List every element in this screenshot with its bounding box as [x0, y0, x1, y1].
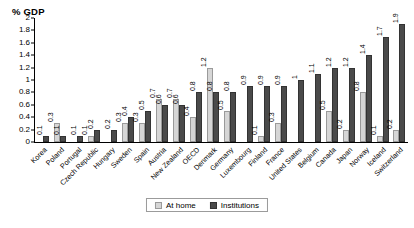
- bar-inst[interactable]: 1.2: [349, 68, 355, 142]
- bar-inst[interactable]: 0.8: [196, 92, 202, 142]
- bar-slot: 0.2: [94, 18, 100, 142]
- bar-group: 0.1: [69, 18, 86, 142]
- bar-value-label: 1.7: [376, 26, 383, 36]
- bar-group: 0.70.6: [154, 18, 171, 142]
- bar-value-label: 0.2: [87, 119, 94, 129]
- bar-slot: 0.1: [77, 18, 83, 142]
- bar-groups: 0.10.30.10.10.10.20.20.30.40.30.50.70.60…: [35, 18, 408, 142]
- bar-group: 1.1: [306, 18, 323, 142]
- bar-group: 0.50.8: [221, 18, 238, 142]
- bar-inst[interactable]: 0.1: [60, 136, 66, 142]
- bar-group: 0.30.5: [137, 18, 154, 142]
- bar-group: 0.10.9: [255, 18, 272, 142]
- bar-slot: 1: [298, 18, 304, 142]
- x-axis-category: Sweden: [120, 144, 137, 192]
- bar-slot: 0.6: [162, 18, 168, 142]
- y-axis-tick-mark: [31, 67, 34, 68]
- bar-value-label: 0.9: [274, 75, 281, 85]
- x-axis-line: [34, 142, 408, 143]
- x-axis-category: New Zealand: [171, 144, 188, 192]
- bar-group: 0.40.8: [188, 18, 205, 142]
- chart-legend: At homeInstitutions: [146, 198, 268, 212]
- x-axis-category: Korea: [35, 144, 52, 192]
- bar-value-label: 0.3: [47, 113, 54, 123]
- bar-value-label: 1.2: [200, 57, 207, 67]
- bar-value-label: 0.5: [319, 100, 326, 110]
- bar-slot: 0.1: [60, 18, 66, 142]
- bar-slot: 0.1: [43, 18, 49, 142]
- y-axis-tick-mark: [31, 30, 34, 31]
- bar-value-label: 1.2: [325, 57, 332, 67]
- y-axis-tick-mark: [31, 18, 34, 19]
- bar-value-label: 0.1: [251, 125, 258, 135]
- bar-value-label: 0.2: [386, 119, 393, 129]
- bar-slot: 0.8: [230, 18, 236, 142]
- bar-group: 0.30.9: [272, 18, 289, 142]
- bar-inst[interactable]: 0.8: [230, 92, 236, 142]
- bar-value-label: 0.8: [353, 82, 360, 92]
- bar-inst[interactable]: 0.1: [77, 136, 83, 142]
- bar-group: 0.70.6: [171, 18, 188, 142]
- y-axis-tick-mark: [31, 80, 34, 81]
- legend-item[interactable]: Institutions: [210, 201, 259, 210]
- bar-value-label: 0.9: [240, 75, 247, 85]
- bar-value-label: 0.8: [223, 82, 230, 92]
- bar-group: 0.1: [35, 18, 52, 142]
- y-axis-tick-mark: [31, 55, 34, 56]
- legend-swatch-inst: [210, 202, 217, 209]
- bar-group: 0.81.4: [357, 18, 374, 142]
- bar-inst[interactable]: 0.6: [162, 105, 168, 142]
- bar-slot: 0.8: [196, 18, 202, 142]
- bar-group: 0.30.1: [52, 18, 69, 142]
- bar-value-label: 1.9: [392, 13, 399, 23]
- bar-slot: 1.9: [399, 18, 405, 142]
- bar-value-label: 0.1: [70, 125, 77, 135]
- x-axis-category-labels: KoreaPolandPortugalCzech RepublicHungary…: [35, 144, 408, 192]
- bar-value-label: 0.6: [155, 94, 162, 104]
- bar-inst[interactable]: 0.2: [111, 130, 117, 142]
- bar-value-label: 0.5: [217, 100, 224, 110]
- bar-slot: 0.9: [281, 18, 287, 142]
- x-axis-category: Canada: [323, 144, 340, 192]
- bar-slot: 0.5: [145, 18, 151, 142]
- bar-inst[interactable]: 1.2: [332, 68, 338, 142]
- bar-slot: 0.4: [128, 18, 134, 142]
- y-axis-tick-mark: [31, 129, 34, 130]
- bar-inst[interactable]: 0.9: [281, 86, 287, 142]
- x-axis-category: Finland: [255, 144, 272, 192]
- bar-inst[interactable]: 1: [298, 80, 304, 142]
- bar-slot: 1.2: [349, 18, 355, 142]
- bar-inst[interactable]: 0.5: [145, 111, 151, 142]
- bar-group: 1.20.8: [205, 18, 222, 142]
- bar-value-label: 0.3: [132, 113, 139, 123]
- bar-slot: 1.4: [366, 18, 372, 142]
- legend-label: At home: [166, 201, 196, 210]
- bar-value-label: 1.1: [308, 63, 315, 73]
- bar-inst[interactable]: 1.9: [399, 24, 405, 142]
- bar-slot: 0.9: [264, 18, 270, 142]
- bar-value-label: 0.8: [206, 82, 213, 92]
- bar-slot: 0.2: [111, 18, 117, 142]
- y-axis-tick-mark: [31, 92, 34, 93]
- bar-group: 0.2: [103, 18, 120, 142]
- bar-inst[interactable]: 0.1: [43, 136, 49, 142]
- bar-group: 0.21.2: [340, 18, 357, 142]
- legend-swatch-home: [155, 202, 162, 209]
- bar-inst[interactable]: 0.2: [94, 130, 100, 142]
- bar-value-label: 0.4: [183, 106, 190, 116]
- bar-group: 0.10.2: [86, 18, 103, 142]
- legend-item[interactable]: At home: [155, 201, 196, 210]
- bar-value-label: 1.2: [342, 57, 349, 67]
- bar-value-label: 1.4: [359, 44, 366, 54]
- bar-value-label: 0.3: [268, 113, 275, 123]
- bar-value-label: 0.8: [189, 82, 196, 92]
- bar-group: 1: [289, 18, 306, 142]
- bar-slot: 0.9: [247, 18, 253, 142]
- y-axis-tick-mark: [31, 117, 34, 118]
- bar-value-label: 0.2: [104, 119, 111, 129]
- bar-slot: 1.1: [315, 18, 321, 142]
- bar-value-label: 0.1: [36, 125, 43, 135]
- bar-value-label: 0.5: [138, 100, 145, 110]
- bar-group: 0.9: [238, 18, 255, 142]
- x-axis-category: Spain: [137, 144, 154, 192]
